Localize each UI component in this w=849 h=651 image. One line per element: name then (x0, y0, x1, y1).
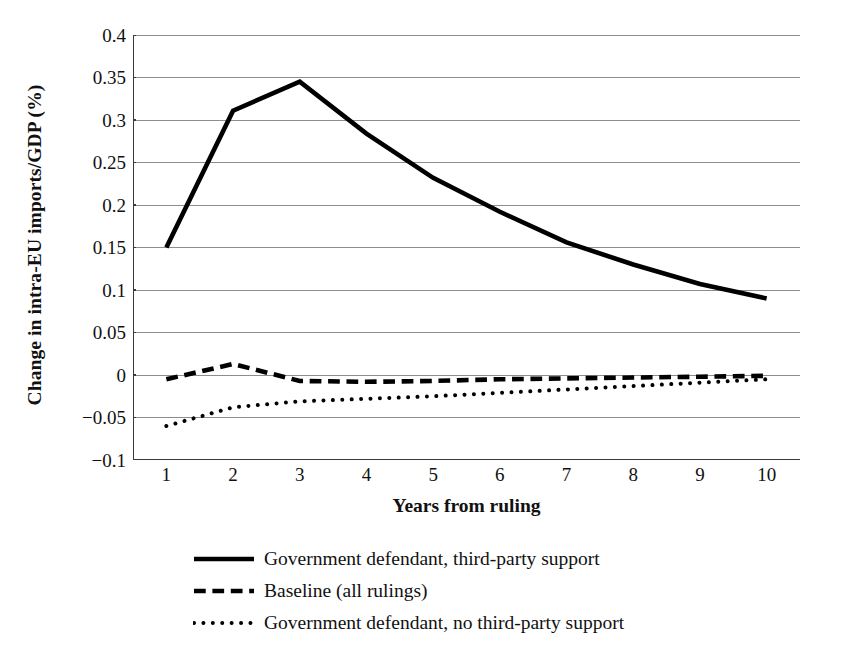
series-line-1 (166, 364, 766, 382)
y-tick-label: 0.4 (56, 26, 126, 45)
y-tick-label: 0.35 (56, 68, 126, 87)
gridlines (133, 35, 800, 460)
x-axis-title: Years from ruling (133, 495, 800, 517)
y-tick-label: 0 (56, 366, 126, 385)
x-tick-label: 8 (600, 464, 667, 492)
legend-item: Government defendant, third-party suppor… (193, 543, 793, 575)
chart-figure: Change in intra-EU imports/GDP (%) 0.40.… (0, 0, 849, 651)
y-tick-label: −0.1 (56, 451, 126, 470)
x-tick-label: 6 (467, 464, 534, 492)
y-tick-label: −0.05 (56, 408, 126, 427)
y-tick-label: 0.25 (56, 153, 126, 172)
legend-item: Government defendant, no third-party sup… (193, 607, 793, 639)
y-axis-title: Change in intra-EU imports/GDP (%) (24, 30, 50, 460)
y-tick-label: 0.2 (56, 196, 126, 215)
x-tick-label: 1 (133, 464, 200, 492)
x-tick-label: 4 (333, 464, 400, 492)
x-axis-tick-labels: 12345678910 (133, 464, 800, 492)
legend-label: Government defendant, third-party suppor… (264, 548, 600, 570)
y-tick-label: 0.1 (56, 281, 126, 300)
x-tick-label: 2 (200, 464, 267, 492)
x-tick-label: 5 (400, 464, 467, 492)
dashed-line-key (193, 582, 255, 600)
plot-area (133, 35, 800, 460)
dotted-line-key (193, 614, 255, 632)
x-tick-label: 7 (533, 464, 600, 492)
x-axis (133, 460, 800, 461)
x-tick-label: 9 (667, 464, 734, 492)
y-tick-label: 0.15 (56, 238, 126, 257)
x-tick-label: 3 (266, 464, 333, 492)
y-tick-label: 0.3 (56, 111, 126, 130)
y-tick-label: 0.05 (56, 323, 126, 342)
chart-legend: Government defendant, third-party suppor… (193, 543, 793, 639)
series-line-0 (166, 82, 766, 299)
y-axis-tick-labels: 0.40.350.30.250.20.150.10.050−0.05−0.1 (50, 35, 126, 460)
plot-svg (133, 35, 800, 460)
legend-item: Baseline (all rulings) (193, 575, 793, 607)
y-axis (133, 35, 136, 460)
solid-line-key (193, 550, 255, 568)
legend-label: Government defendant, no third-party sup… (264, 612, 624, 634)
x-tick-label: 10 (733, 464, 800, 492)
legend-label: Baseline (all rulings) (264, 580, 428, 602)
series-line-2 (166, 379, 766, 426)
